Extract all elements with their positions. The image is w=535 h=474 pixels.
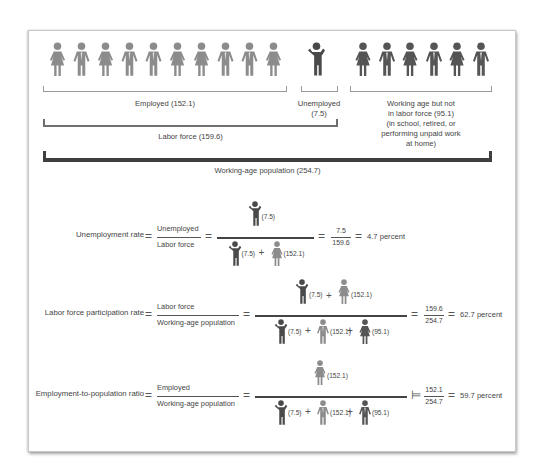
nilf-man-icon (358, 400, 372, 425)
equation-label: Employment-to-population ratio (36, 389, 144, 398)
employed-woman-icon (168, 42, 187, 76)
fraction-line (157, 237, 201, 238)
numerator-value: 159.6 (423, 304, 445, 314)
nilf-label-line: at home) (350, 139, 492, 149)
numerator-value: 7.5 (330, 226, 352, 236)
unemployed-label-1: Unemployed (290, 99, 348, 109)
icon-value: (95.1) (372, 327, 389, 337)
nilf-woman-icon (358, 319, 372, 344)
nilf-label-line: (in school, retired, or (350, 119, 492, 129)
result-value: 4.7 percent (367, 232, 405, 242)
denominator-text: Labor force (157, 240, 194, 250)
icon-value: (152.1) (327, 371, 348, 381)
equals-sign: ⊨ (411, 388, 421, 402)
result-value: 62.7 percent (460, 310, 502, 320)
nilf-man-icon (377, 42, 397, 76)
unemployed-icon (248, 201, 262, 226)
numerator-text: Employed (157, 383, 190, 393)
employed-woman-icon (48, 42, 67, 76)
employed-label: Employed (152.1) (43, 99, 287, 109)
icon-fraction-line (217, 237, 314, 239)
nilf-man-icon (471, 42, 491, 76)
unemployed-icon (274, 400, 288, 425)
fraction-line (157, 396, 239, 397)
equals-sign: = (145, 307, 152, 321)
icon-fraction-line (255, 315, 407, 317)
employed-woman-icon (192, 42, 211, 76)
employed-man-icon (120, 42, 139, 76)
equals-sign: = (145, 388, 152, 402)
denominator-value: 254.7 (423, 316, 445, 326)
icon-value: (95.1) (372, 408, 389, 418)
employed-man-icon (240, 42, 259, 76)
employed-woman-icon (270, 241, 284, 266)
employed-woman-icon (264, 42, 283, 76)
numerator-text: Labor force (157, 302, 194, 312)
employed-man-icon (216, 42, 235, 76)
equation-label: Labor force participation rate (45, 308, 144, 317)
working-age-label: Working-age population (254.7) (43, 166, 492, 176)
plus-sign: + (305, 406, 311, 417)
plus-sign: + (259, 247, 265, 258)
plus-sign: + (347, 406, 353, 417)
equation-label: Unemployment rate (76, 230, 144, 239)
employed-man-icon (72, 42, 91, 76)
nilf-label-line: Working age but not (350, 99, 492, 109)
nilf-bracket (350, 86, 492, 92)
icon-value: (7.5) (262, 212, 276, 222)
equals-sign: = (243, 388, 250, 402)
denominator-value: 254.7 (423, 397, 445, 407)
denominator-text: Working-age population (157, 399, 235, 409)
icon-value: (7.5) (309, 290, 323, 300)
employed-man-icon (316, 400, 330, 425)
numerator-value: 152.1 (423, 385, 445, 395)
equals-sign: = (448, 388, 455, 402)
employed-woman-icon (337, 279, 351, 304)
plus-sign: + (326, 290, 332, 301)
equals-sign: = (355, 229, 362, 243)
denominator-text: Working-age population (157, 318, 235, 328)
employed-man-icon (144, 42, 163, 76)
equals-sign: = (205, 229, 212, 243)
equals-sign: = (243, 307, 250, 321)
plus-sign: + (347, 325, 353, 336)
nilf-label: Working age but not in labor force (95.1… (350, 99, 492, 149)
employed-bracket (43, 86, 287, 92)
icon-value: (7.5) (288, 408, 302, 418)
icon-value: (152.1) (284, 249, 305, 259)
nilf-man-icon (424, 42, 444, 76)
unemployed-icon (228, 241, 242, 266)
nilf-woman-icon (400, 42, 420, 76)
fraction-line (157, 315, 239, 316)
labor-force-bracket (43, 119, 338, 127)
unemployed-label-2: (7.5) (290, 109, 348, 119)
plus-sign: + (305, 325, 311, 336)
numerator-text: Unemployed (157, 224, 199, 234)
nilf-label-line: performing unpaid work (350, 129, 492, 139)
equals-sign: = (411, 307, 418, 321)
unemployed-person-icon (307, 42, 326, 76)
nilf-woman-icon (353, 42, 373, 76)
icon-value: (7.5) (288, 327, 302, 337)
icon-fraction-line (255, 396, 407, 398)
employed-woman-icon (313, 360, 327, 385)
equals-sign: = (145, 229, 152, 243)
nilf-label-line: in labor force (95.1) (350, 109, 492, 119)
labor-force-label: Labor force (159.6) (43, 132, 338, 142)
icon-value: (7.5) (242, 249, 256, 259)
equals-sign: = (318, 229, 325, 243)
working-age-bracket (43, 151, 492, 162)
nilf-woman-icon (447, 42, 467, 76)
unemployed-icon (295, 279, 309, 304)
denominator-value: 159.6 (330, 238, 352, 248)
icon-value: (152.1) (351, 290, 372, 300)
unemployed-bracket (301, 86, 338, 92)
equals-sign: = (448, 307, 455, 321)
employed-woman-icon (96, 42, 115, 76)
unemployed-icon (274, 319, 288, 344)
employed-man-icon (316, 319, 330, 344)
result-value: 59.7 percent (460, 391, 502, 401)
